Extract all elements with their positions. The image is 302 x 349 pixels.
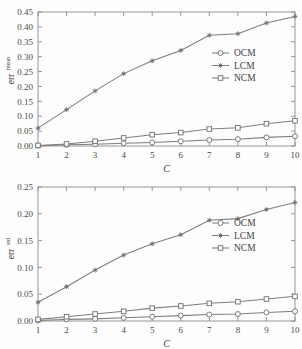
y-tick-label-8: 0.40: [17, 22, 33, 32]
x-tick-label-6: 7: [207, 150, 212, 160]
data-point-square-NCM-7: [236, 126, 241, 131]
data-point-circle-OCM-9: [293, 309, 298, 314]
data-point-asterisk-LCM-8: [264, 21, 269, 26]
data-point-asterisk-LCM-1: [64, 284, 69, 289]
data-point-asterisk-LCM-8: [264, 207, 269, 212]
data-point-square-NCM-5: [178, 304, 183, 309]
y-axis-title-superscript: std: [5, 238, 11, 245]
figure-container: 0.000.050.100.150.200.250.300.350.400.45…: [0, 0, 302, 349]
chart-panel-bottom: 0.000.050.100.150.200.2512345678910Cerrs…: [0, 175, 302, 349]
y-tick-label-9: 0.45: [17, 7, 33, 17]
data-point-circle-OCM-4: [150, 140, 155, 145]
chart-bottom-svg: 0.000.050.100.150.200.2512345678910Cerrs…: [0, 175, 302, 349]
y-tick-label-1: 0.05: [17, 289, 33, 299]
data-point-circle-OCM-6: [207, 138, 212, 143]
series-NCM: [36, 118, 298, 147]
x-tick-label-6: 7: [207, 325, 212, 335]
x-tick-label-9: 10: [291, 325, 301, 335]
x-tick-label-3: 4: [121, 325, 126, 335]
y-tick-label-7: 0.35: [17, 37, 33, 47]
data-point-square-NCM-1: [64, 142, 69, 147]
data-point-asterisk-LCM-4: [150, 241, 155, 246]
data-point-square-legend-NCM: [218, 76, 223, 81]
y-tick-label-5: 0.25: [17, 182, 33, 192]
x-tick-label-1: 2: [64, 325, 69, 335]
y-tick-label-4: 0.20: [17, 209, 33, 219]
data-point-square-NCM-0: [36, 143, 41, 148]
data-point-circle-OCM-2: [93, 316, 98, 321]
data-point-circle-OCM-9: [293, 134, 298, 139]
y-axis-title-superscript: mean: [5, 57, 11, 70]
data-point-asterisk-LCM-6: [207, 218, 212, 223]
data-point-square-NCM-9: [293, 294, 298, 299]
x-tick-label-8: 9: [264, 325, 269, 335]
data-point-square-NCM-4: [150, 132, 155, 137]
data-point-circle-OCM-7: [235, 137, 240, 142]
data-point-square-NCM-8: [264, 121, 269, 126]
data-point-square-NCM-6: [207, 127, 212, 132]
y-tick-label-2: 0.10: [17, 263, 33, 273]
data-point-asterisk-LCM-2: [93, 89, 98, 94]
series-LCM: [36, 200, 298, 304]
data-point-square-NCM-6: [207, 301, 212, 306]
x-tick-label-4: 5: [150, 325, 155, 335]
legend-label-LCM: LCM: [234, 61, 255, 71]
data-point-asterisk-LCM-0: [36, 300, 41, 305]
x-tick-label-7: 8: [236, 325, 241, 335]
x-tick-label-4: 5: [150, 150, 155, 160]
svg-text:err: err: [6, 73, 16, 84]
data-point-asterisk-LCM-3: [121, 253, 126, 258]
x-tick-label-2: 3: [93, 325, 98, 335]
x-tick-label-3: 4: [121, 150, 126, 160]
x-tick-label-9: 10: [291, 150, 301, 160]
data-point-circle-OCM-8: [264, 135, 269, 140]
data-point-circle-OCM-8: [264, 310, 269, 315]
y-tick-label-6: 0.30: [17, 52, 33, 62]
y-tick-label-5: 0.25: [17, 67, 33, 77]
data-point-circle-OCM-6: [207, 312, 212, 317]
svg-text:err: err: [6, 248, 16, 259]
data-point-asterisk-LCM-7: [235, 31, 240, 36]
x-axis-title: C: [163, 163, 170, 174]
x-tick-label-5: 6: [179, 150, 184, 160]
data-point-circle-legend-OCM: [218, 221, 223, 226]
data-point-square-NCM-5: [178, 130, 183, 135]
data-point-square-NCM-8: [264, 297, 269, 302]
series-line-LCM: [38, 16, 295, 128]
y-tick-label-4: 0.20: [17, 82, 33, 92]
data-point-square-NCM-2: [93, 139, 98, 144]
series-line-OCM: [38, 136, 295, 146]
y-tick-label-3: 0.15: [17, 97, 33, 107]
data-point-asterisk-LCM-3: [121, 71, 126, 76]
data-point-asterisk-LCM-2: [93, 268, 98, 273]
legend: OCMLCMNCM: [212, 218, 256, 253]
data-point-circle-OCM-4: [150, 314, 155, 319]
y-tick-label-3: 0.15: [17, 236, 33, 246]
data-point-circle-legend-OCM: [218, 51, 223, 56]
y-axis-title: errmean: [5, 57, 16, 84]
legend-label-NCM: NCM: [234, 73, 256, 83]
legend-label-LCM: LCM: [234, 231, 255, 241]
data-point-asterisk-LCM-9: [293, 200, 298, 205]
y-axis-title: errstd: [5, 238, 16, 259]
x-tick-label-5: 6: [179, 325, 184, 335]
data-point-asterisk-LCM-5: [178, 232, 183, 237]
legend-label-NCM: NCM: [234, 243, 256, 253]
y-tick-label-2: 0.10: [17, 111, 33, 121]
series-LCM: [36, 14, 298, 130]
data-point-square-NCM-3: [121, 136, 126, 141]
data-point-circle-OCM-5: [178, 313, 183, 318]
chart-panel-top: 0.000.050.100.150.200.250.300.350.400.45…: [0, 0, 302, 174]
data-point-square-NCM-1: [64, 314, 69, 319]
data-point-asterisk-LCM-9: [293, 14, 298, 19]
x-tick-label-1: 2: [64, 150, 69, 160]
x-tick-label-0: 1: [36, 150, 41, 160]
plot-frame: [38, 187, 295, 321]
data-point-square-NCM-9: [293, 118, 298, 123]
data-point-circle-OCM-7: [235, 312, 240, 317]
data-point-square-NCM-3: [121, 309, 126, 314]
legend-label-OCM: OCM: [234, 48, 256, 58]
data-point-asterisk-LCM-1: [64, 107, 69, 112]
data-point-asterisk-LCM-5: [178, 48, 183, 53]
data-point-asterisk-legend-LCM: [218, 233, 223, 238]
